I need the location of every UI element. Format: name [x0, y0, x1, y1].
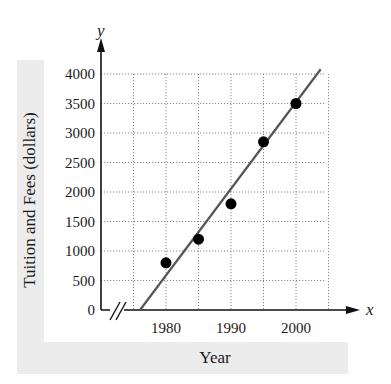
data-point — [226, 198, 237, 209]
tick-labels: 0500100015002000250030003500400019801990… — [65, 66, 311, 336]
y-axis-arrow-icon — [97, 38, 105, 52]
y-tick-label: 500 — [73, 273, 96, 289]
x-axis-arrow-icon — [346, 306, 360, 314]
data-point — [291, 98, 302, 109]
data-point — [258, 136, 269, 147]
y-tick-label: 0 — [88, 302, 96, 318]
chart-plot: yx 0500100015002000250030003500400019801… — [0, 0, 391, 384]
axes: yx — [95, 21, 374, 320]
y-tick-label: 3500 — [65, 96, 95, 112]
y-tick-label: 2000 — [65, 184, 95, 200]
grid-lines — [101, 74, 329, 310]
x-tick-label: 2000 — [281, 320, 311, 336]
y-tick-label: 4000 — [65, 66, 95, 82]
data-point — [161, 257, 172, 268]
data-point — [193, 234, 204, 245]
x-tick-label: 1980 — [151, 320, 181, 336]
x-axis-variable: x — [365, 300, 374, 319]
y-tick-label: 1500 — [65, 214, 95, 230]
x-tick-label: 1990 — [216, 320, 246, 336]
y-tick-label: 2500 — [65, 155, 95, 171]
y-tick-label: 1000 — [65, 243, 95, 259]
y-axis-variable: y — [95, 21, 105, 40]
y-tick-label: 3000 — [65, 125, 95, 141]
